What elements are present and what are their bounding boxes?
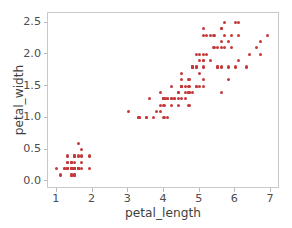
data-point [173,97,176,100]
data-point [230,34,233,37]
data-point [220,27,223,30]
data-point [220,46,223,49]
data-point [195,65,198,68]
data-point [180,97,183,100]
data-point [148,97,151,100]
data-point [227,65,230,68]
data-point [80,167,83,170]
x-tick-mark [199,188,200,192]
data-point [237,59,240,62]
data-point [66,161,69,164]
data-point [198,85,201,88]
data-point [237,34,240,37]
data-point [145,116,148,119]
data-point [205,34,208,37]
data-point [187,104,190,107]
data-point [162,104,165,107]
x-tick-mark [163,188,164,192]
data-point [70,161,73,164]
data-point [202,59,205,62]
data-point [198,53,201,56]
data-point [166,116,169,119]
data-point [220,40,223,43]
data-point [180,85,183,88]
x-axis-label: petal_length [47,206,279,220]
y-tick-mark [44,22,48,23]
y-tick-mark [44,117,48,118]
data-point [198,72,201,75]
data-point [234,65,237,68]
y-tick-mark [44,180,48,181]
scatter-plot-figure: 1234567 0.00.51.01.52.02.5 petal_length … [0,0,292,228]
data-point [77,154,80,157]
data-point [55,167,58,170]
x-tick-label: 2 [80,192,104,205]
data-point [80,148,83,151]
data-point [216,65,219,68]
data-point [212,34,215,37]
x-tick-label: 6 [222,192,246,205]
data-point [223,21,226,24]
data-point [202,78,205,81]
x-tick-label: 7 [258,192,282,205]
data-point [73,167,76,170]
data-point [220,91,223,94]
data-point [230,46,233,49]
data-point [266,34,269,37]
data-point [237,21,240,24]
data-point [66,154,69,157]
data-point [255,46,258,49]
data-point [73,173,76,176]
x-tick-mark [127,188,128,192]
data-point [77,167,80,170]
data-point [212,46,215,49]
y-tick-mark [44,53,48,54]
data-point [70,167,73,170]
data-point [66,167,69,170]
x-tick-label: 5 [187,192,211,205]
data-point [198,59,201,62]
data-point [184,97,187,100]
data-point [191,65,194,68]
data-point [187,78,190,81]
x-tick-mark [234,188,235,192]
x-tick-label: 1 [44,192,68,205]
data-point [180,72,183,75]
data-point [70,173,73,176]
data-point [73,161,76,164]
data-point [195,53,198,56]
data-point [191,91,194,94]
data-point [248,53,251,56]
data-points-layer [48,13,278,187]
data-point [202,27,205,30]
data-point [259,53,262,56]
x-tick-mark [92,188,93,192]
data-point [80,161,83,164]
data-point [177,97,180,100]
data-point [259,40,262,43]
data-point [205,53,208,56]
data-point [73,154,76,157]
data-point [170,104,173,107]
data-point [155,110,158,113]
data-point [159,110,162,113]
data-point [180,78,183,81]
data-point [209,59,212,62]
data-point [216,46,219,49]
data-point [152,116,155,119]
data-point [223,34,226,37]
data-point [170,85,173,88]
data-point [177,91,180,94]
data-point [184,91,187,94]
data-point [177,104,180,107]
y-tick-mark [44,85,48,86]
data-point [127,110,130,113]
x-tick-label: 4 [151,192,175,205]
plot-area [47,12,279,188]
x-tick-label: 3 [115,192,139,205]
x-tick-mark [56,188,57,192]
data-point [187,85,190,88]
data-point [137,116,140,119]
data-point [227,40,230,43]
data-point [77,142,80,145]
